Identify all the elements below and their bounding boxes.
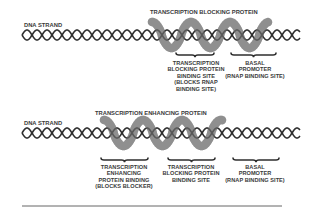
binding-site-brace	[231, 53, 276, 57]
blocking-protein-wave-front	[152, 22, 268, 48]
binding-site-brace	[233, 158, 279, 162]
dna-strand-label: DNA STRAND	[24, 120, 62, 126]
site-label-line: (RNAP BINDING SITE)	[222, 177, 288, 183]
enhancing-protein-label: TRANSCRIPTION ENHANCING PROTEIN	[95, 110, 207, 116]
site-label-line: BLOCKING PROTEIN	[157, 170, 225, 176]
binding-site-brace	[168, 158, 215, 162]
panel-blocking-protein	[22, 22, 300, 57]
site-label-basal-promoter: BASAL PROMOTER (RNAP BINDING SITE)	[222, 60, 288, 79]
site-label-blocking-protein-binding: TRANSCRIPTION BLOCKING PROTEIN BINDING S…	[157, 164, 225, 183]
site-label-enhancing-protein-binding: TRANSCRIPTION ENHANCING PROTEIN BINDING …	[90, 164, 158, 190]
binding-site-braces	[176, 53, 276, 57]
binding-site-brace	[176, 53, 214, 57]
panel-enhancing-protein	[22, 120, 300, 162]
binding-site-braces	[101, 158, 279, 162]
blocking-protein-label: TRANSCRIPTION BLOCKING PROTEIN	[150, 9, 258, 15]
site-label-line: (BLOCKS BLOCKER)	[90, 183, 158, 189]
site-label-line: BINDING SITE	[157, 177, 225, 183]
site-label-line: BINDING SITE)	[160, 86, 232, 92]
site-label-line: (RNAP BINDING SITE)	[222, 73, 288, 79]
dna-strand-label: DNA STRAND	[24, 22, 62, 28]
site-label-basal-promoter: BASAL PROMOTER (RNAP BINDING SITE)	[222, 164, 288, 183]
binding-site-brace	[101, 158, 148, 162]
dna-strand-helix	[22, 128, 300, 138]
protein-wave-overlay	[152, 22, 268, 48]
